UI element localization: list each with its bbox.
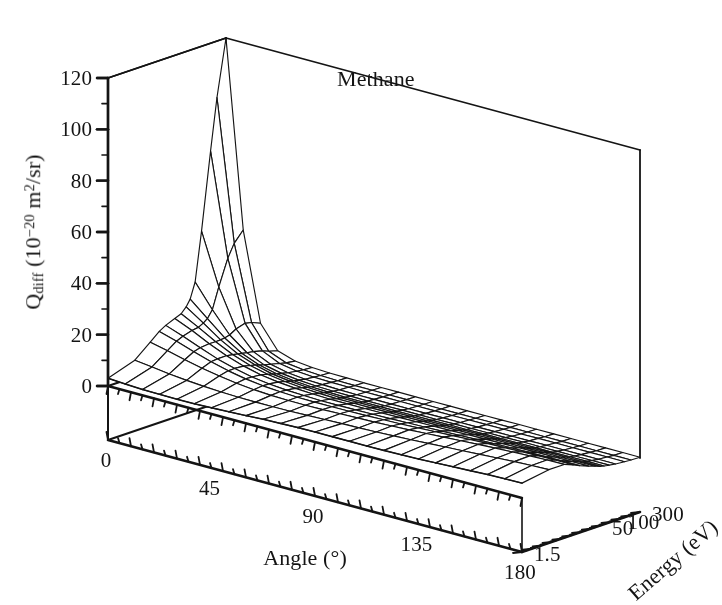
z-axis-title-subscript: diff	[30, 273, 46, 294]
z-tick-label-60: 60	[71, 222, 92, 243]
angle-tick-label-90: 90	[302, 506, 323, 527]
angle-tick-label-45: 45	[199, 478, 220, 499]
angle-axis-title: Angle (°)	[263, 547, 347, 569]
angle-tick-label-180: 180	[504, 562, 536, 583]
z-tick-label-40: 40	[71, 273, 92, 294]
angle-tick-label-0: 0	[101, 450, 112, 471]
z-axis-title: Qdiff (10−20 m2/sr)	[22, 154, 46, 309]
z-axis-title-unit-suffix: /sr)	[20, 154, 45, 184]
series-annotation-methane: Methane	[337, 68, 415, 90]
energy-tick-label-1p5: 1.5	[534, 544, 561, 565]
z-axis-title-unit-mid: m	[20, 191, 45, 214]
z-tick-label-120: 120	[60, 68, 92, 89]
z-tick-label-0: 0	[81, 376, 92, 397]
z-axis-title-unit-prefix: (10	[20, 237, 45, 272]
z-tick-label-80: 80	[71, 170, 92, 191]
z-axis-title-unit-square: 2	[21, 184, 37, 191]
z-tick-label-20: 20	[71, 324, 92, 345]
z-axis-title-symbol: Q	[20, 294, 45, 310]
z-tick-label-100: 100	[60, 119, 92, 140]
energy-tick-label-300: 300	[652, 504, 684, 525]
angle-tick-label-135: 135	[401, 534, 433, 555]
z-axis-title-unit-exponent: −20	[21, 214, 37, 237]
